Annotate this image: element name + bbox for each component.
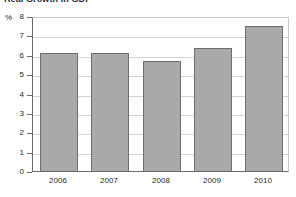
y-axis-tick — [27, 172, 32, 173]
y-axis-label: 3 — [2, 110, 24, 118]
chart-title: Real Growth in GDP — [4, 0, 91, 4]
y-axis-label: 8 — [2, 13, 24, 21]
x-axis-label: 2009 — [192, 177, 232, 185]
y-axis-label: 0 — [2, 168, 24, 176]
bar — [245, 26, 283, 172]
y-axis-label: 4 — [2, 91, 24, 99]
plot-area — [32, 17, 289, 172]
x-axis-label: 2010 — [243, 177, 283, 185]
bar — [91, 53, 129, 172]
x-axis-label: 2006 — [38, 177, 78, 185]
bar — [194, 48, 232, 172]
y-axis-label: 7 — [2, 32, 24, 40]
chart-figure: Real Growth in GDP % 012345678 200620072… — [0, 0, 296, 197]
y-axis-label: 6 — [2, 52, 24, 60]
y-axis-label: 2 — [2, 129, 24, 137]
bar — [143, 61, 181, 172]
y-axis-label: 5 — [2, 71, 24, 79]
x-axis-label: 2007 — [89, 177, 129, 185]
x-axis-label: 2008 — [141, 177, 181, 185]
bar — [40, 53, 78, 172]
y-axis-label: 1 — [2, 149, 24, 157]
